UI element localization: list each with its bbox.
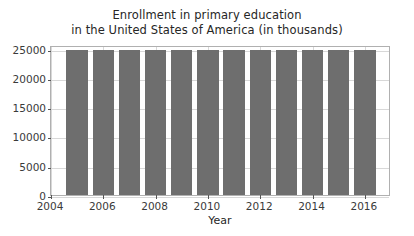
bar-chart-figure: Enrollment in primary education in the U…: [0, 0, 414, 236]
x-tick-label: 2008: [141, 201, 168, 212]
y-tick-mark: [48, 168, 52, 169]
bar: [66, 50, 87, 195]
x-tick-label: 2006: [89, 201, 116, 212]
y-tick-label: 20000: [2, 74, 46, 85]
bar: [145, 50, 166, 195]
x-tick-label: 2010: [194, 201, 221, 212]
x-tick-mark: [260, 195, 261, 199]
plot-area: [50, 46, 390, 196]
bar: [276, 50, 297, 195]
bar: [223, 50, 244, 195]
bar: [171, 50, 192, 195]
gridline-horizontal: [51, 197, 389, 198]
bar: [328, 50, 349, 195]
y-tick-mark: [48, 197, 52, 198]
x-axis-title: Year: [50, 215, 390, 226]
x-tick-label: 2014: [298, 201, 325, 212]
y-tick-label: 10000: [2, 132, 46, 143]
x-tick-label: 2016: [350, 201, 377, 212]
y-tick-label: 25000: [2, 44, 46, 55]
y-tick-label: 5000: [2, 161, 46, 172]
y-tick-label: 15000: [2, 103, 46, 114]
chart-title: Enrollment in primary education in the U…: [0, 8, 414, 37]
bar: [354, 50, 375, 195]
x-tick-mark: [313, 195, 314, 199]
y-tick-mark: [48, 138, 52, 139]
x-tick-label: 2012: [246, 201, 273, 212]
x-tick-mark: [208, 195, 209, 199]
bar: [119, 50, 140, 195]
bar: [250, 50, 271, 195]
x-tick-label: 2004: [37, 201, 64, 212]
x-tick-mark: [51, 195, 52, 199]
x-tick-mark: [156, 195, 157, 199]
bar: [197, 50, 218, 195]
bar: [302, 50, 323, 195]
y-tick-mark: [48, 109, 52, 110]
chart-title-line-2: in the United States of America (in thou…: [0, 23, 414, 38]
chart-title-line-1: Enrollment in primary education: [0, 8, 414, 23]
x-tick-mark: [103, 195, 104, 199]
x-tick-mark: [365, 195, 366, 199]
bar-series: [51, 47, 389, 195]
y-tick-mark: [48, 51, 52, 52]
y-tick-mark: [48, 80, 52, 81]
bar: [93, 50, 114, 195]
y-axis-tick-labels: 0500010000150002000025000: [0, 46, 46, 196]
